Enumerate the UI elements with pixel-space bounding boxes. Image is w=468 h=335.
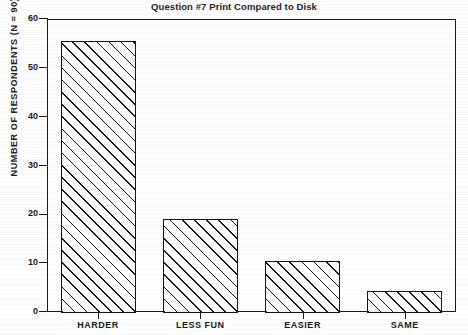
x-axis-tick-label: EASIER bbox=[284, 320, 321, 330]
y-axis-tick bbox=[39, 18, 48, 19]
x-axis-tick bbox=[405, 312, 406, 319]
y-axis-tick-label: 30 bbox=[4, 160, 38, 170]
x-axis-tick-label: SAME bbox=[391, 320, 419, 330]
chart-page: Question #7 Print Compared to Disk NUMBE… bbox=[0, 0, 468, 335]
y-axis-tick-label: 10 bbox=[4, 257, 38, 267]
y-axis-tick-label: 60 bbox=[4, 13, 38, 23]
x-axis-tick bbox=[200, 312, 201, 319]
x-axis-tick bbox=[303, 312, 304, 319]
bar-less-fun[interactable] bbox=[163, 219, 238, 313]
y-axis-tick bbox=[39, 262, 48, 263]
x-axis-tick bbox=[98, 312, 99, 319]
y-axis-tick bbox=[39, 67, 48, 68]
y-axis-tick-label: 40 bbox=[4, 111, 38, 121]
y-axis-tick-label: 0 bbox=[4, 306, 38, 316]
bar-easier[interactable] bbox=[265, 261, 340, 313]
y-axis-tick-label: 20 bbox=[4, 208, 38, 218]
bar-harder[interactable] bbox=[61, 41, 136, 313]
bar-same[interactable] bbox=[367, 291, 442, 313]
y-axis-tick bbox=[39, 165, 48, 166]
chart-title: Question #7 Print Compared to Disk bbox=[0, 1, 468, 12]
y-axis-label-group: 0102030405060 bbox=[0, 0, 38, 335]
y-axis-tick-label: 50 bbox=[4, 62, 38, 72]
y-axis-tick bbox=[39, 116, 48, 117]
x-axis-tick-label: HARDER bbox=[77, 320, 119, 330]
x-axis-tick-label: LESS FUN bbox=[176, 320, 225, 330]
y-axis-tick bbox=[39, 214, 48, 215]
y-axis-tick bbox=[39, 311, 48, 312]
